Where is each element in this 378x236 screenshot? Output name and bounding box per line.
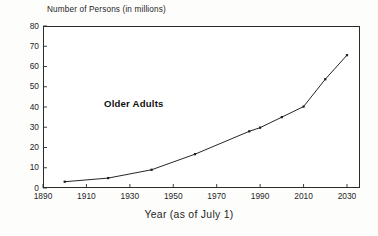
y-tick-label: 60 (17, 62, 39, 71)
y-tick-label: 80 (17, 22, 39, 31)
x-tick-label: 1990 (243, 192, 277, 201)
y-tick-label: 70 (17, 42, 39, 51)
y-tick-label: 30 (17, 123, 39, 132)
x-tick-label: 2010 (287, 192, 321, 201)
plot-area (43, 26, 360, 188)
x-tick-label: 1930 (113, 192, 147, 201)
x-tick-label: 1950 (156, 192, 190, 201)
y-tick-label: 10 (17, 163, 39, 172)
y-axis-title: Number of Persons (in millions) (47, 5, 166, 14)
series-annotation-older-adults: Older Adults (104, 98, 164, 109)
line-chart: Number of Persons (in millions) 01020304… (0, 0, 378, 236)
x-axis-title: Year (as of July 1) (0, 209, 378, 220)
x-tick-label: 2030 (330, 192, 364, 201)
y-tick-label: 50 (17, 82, 39, 91)
y-tick-label: 20 (17, 143, 39, 152)
x-tick-label: 1890 (26, 192, 60, 201)
y-tick-label: 40 (17, 103, 39, 112)
x-tick-label: 1910 (69, 192, 103, 201)
x-tick-label: 1970 (200, 192, 234, 201)
